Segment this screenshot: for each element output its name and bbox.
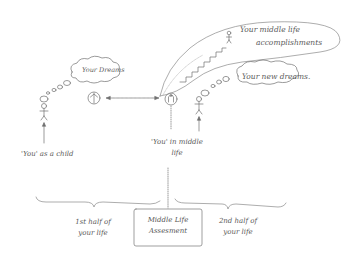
circled-figure-a-icon [88, 92, 100, 104]
accomplishments-label-line1: Your middle life [240, 26, 300, 34]
middle-life-you-text: 'You' in middle life [151, 138, 203, 157]
first-half-label: 1st half of your life [68, 217, 118, 239]
first-half-line1: 1st half of [68, 217, 118, 228]
assessment-line2: Assesment [134, 226, 202, 237]
second-half-label: 2nd half of your life [213, 216, 263, 238]
second-half-brace-icon [175, 199, 286, 209]
second-half-line1: 2nd half of [213, 216, 263, 227]
middle-life-you-label: 'You' in middle life [146, 137, 208, 159]
child-label: 'You' as a child [21, 150, 74, 158]
your-dreams-label: Your Dreams [82, 66, 125, 74]
middle-life-arrow-icon [198, 117, 201, 132]
child-stick-figure-icon [40, 104, 48, 121]
assessment-line1: Middle Life [134, 215, 202, 226]
first-half-brace-icon [36, 197, 160, 207]
accomplishments-label-line2: accomplishments [256, 39, 322, 47]
new-dreams-label: Your new dreams. [242, 73, 310, 81]
bidirectional-arrow-icon [106, 97, 159, 100]
middle-life-stick-figure-icon [195, 97, 203, 115]
dreams-cloud-icon [40, 56, 120, 102]
first-half-line2: your life [68, 228, 118, 239]
diagram-canvas: Your Dreams 'You' as a child Your middle… [0, 0, 357, 265]
second-half-line2: your life [213, 227, 263, 238]
child-arrow-icon [43, 123, 46, 144]
assessment-box-label: Middle Life Assesment [134, 215, 202, 237]
